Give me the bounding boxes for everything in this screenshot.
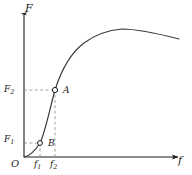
y-tick-label-F1: F1 <box>4 135 14 144</box>
marker-point-b <box>38 141 43 146</box>
point-label-a: A <box>63 86 70 95</box>
frequency-axis-label: f <box>178 155 182 166</box>
x-tick-label-f2: f2 <box>50 160 57 169</box>
x-tick-label-f1: f1 <box>34 160 41 169</box>
origin-label: O <box>11 159 19 169</box>
plot-canvas <box>0 0 192 175</box>
x-tick-f2-subscript: 2 <box>53 163 57 171</box>
y-tick-F1-subscript: 1 <box>10 138 14 146</box>
force-axis-label: F <box>25 3 33 14</box>
x-tick-f1-subscript: 1 <box>37 163 41 171</box>
force-frequency-figure: F f F2 F1 f1 f2 A B O <box>0 0 192 175</box>
y-tick-F2-subscript: 2 <box>10 88 14 96</box>
marker-point-a <box>52 87 57 92</box>
point-label-b: B <box>48 139 55 148</box>
y-tick-label-F2: F2 <box>4 85 14 94</box>
